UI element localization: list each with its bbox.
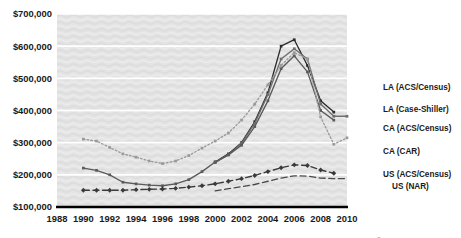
series-marker	[201, 147, 204, 150]
series-marker	[240, 144, 243, 147]
x-tick-label: 1998	[178, 213, 199, 224]
legend-label-us-nar: US (NAR)	[392, 182, 429, 191]
y-tick-label: $700,000	[13, 8, 52, 19]
series-marker	[148, 160, 151, 163]
legend-label-ca-acs-census: CA (ACS/Census)	[383, 124, 452, 133]
series-marker	[122, 153, 125, 156]
series-marker	[280, 45, 283, 48]
series-marker	[267, 100, 270, 103]
series-marker	[293, 54, 296, 57]
legend-label-la-acs-census: LA (ACS/Census)	[383, 83, 451, 92]
series-marker	[214, 161, 217, 164]
series-marker	[253, 125, 256, 128]
x-tick-label: 2004	[257, 213, 279, 224]
series-marker	[82, 167, 85, 170]
series-marker	[346, 115, 349, 118]
y-tick-label: $200,000	[13, 169, 52, 180]
series-marker	[227, 154, 230, 157]
chart-canvas: $100,000$200,000$300,000$400,000$500,000…	[0, 0, 461, 238]
series-marker	[306, 71, 309, 74]
x-tick-label: 1994	[126, 213, 148, 224]
series-marker	[346, 136, 349, 139]
series-marker	[332, 111, 335, 114]
series-marker	[267, 93, 270, 96]
house-price-line-chart: $100,000$200,000$300,000$400,000$500,000…	[0, 0, 461, 238]
series-marker	[108, 173, 111, 176]
x-tick-label: 1992	[99, 213, 120, 224]
series-marker	[332, 115, 335, 118]
series-marker	[82, 138, 85, 141]
series-marker	[148, 184, 151, 187]
y-tick-label: $400,000	[13, 105, 52, 116]
series-marker	[280, 58, 283, 61]
series-marker	[135, 156, 138, 159]
series-marker	[174, 160, 177, 163]
x-tick-label: 1996	[152, 213, 173, 224]
series-marker	[253, 103, 256, 106]
series-marker	[95, 140, 98, 143]
y-tick-label: $300,000	[13, 137, 52, 148]
y-tick-label: $100,000	[13, 201, 52, 212]
series-marker	[319, 116, 322, 119]
y-tick-label: $600,000	[13, 41, 52, 52]
legend-label-ca-car: CA (CAR)	[383, 147, 420, 156]
series-marker	[187, 178, 190, 181]
series-marker	[122, 181, 125, 184]
legend-label-la-case-shiller: LA (Case-Shiller)	[383, 105, 449, 114]
series-marker	[161, 162, 164, 165]
legend: LA (ACS/Census)LA (Case-Shiller)CA (ACS/…	[383, 83, 452, 191]
x-tick-label: 1988	[47, 213, 68, 224]
series-marker	[332, 143, 335, 146]
series-marker	[293, 38, 296, 41]
series-marker	[135, 182, 138, 185]
series-marker	[174, 182, 177, 185]
x-tick-label: 1990	[73, 213, 94, 224]
x-tick-label: 2006	[284, 213, 305, 224]
series-marker	[201, 170, 204, 173]
series-marker	[280, 64, 283, 67]
series-marker	[267, 83, 270, 86]
series-marker	[95, 169, 98, 172]
x-tick-label: 2000	[205, 213, 226, 224]
series-marker	[332, 119, 335, 122]
series-marker	[227, 132, 230, 135]
y-tick-label: $500,000	[13, 73, 52, 84]
legend-label-us-acs-census: US (ACS/Census)	[383, 170, 452, 179]
x-tick-label: 2010	[337, 213, 358, 224]
x-axis-tick-labels: 1988199019921994199619982000200220042006…	[47, 213, 358, 224]
series-marker	[319, 103, 322, 106]
series-marker	[306, 58, 309, 61]
series-marker	[293, 51, 296, 54]
series-marker	[187, 154, 190, 157]
series-marker	[214, 140, 217, 143]
x-tick-label: 2008	[310, 213, 331, 224]
series-marker	[108, 146, 111, 149]
y-axis-tick-labels: $100,000$200,000$300,000$400,000$500,000…	[13, 8, 52, 212]
series-marker	[240, 119, 243, 122]
series-marker	[293, 47, 296, 50]
x-tick-label: 2002	[231, 213, 252, 224]
